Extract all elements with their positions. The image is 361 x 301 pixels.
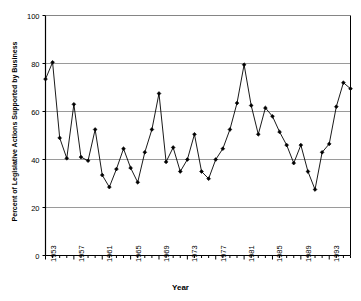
- data-point-marker: [100, 173, 104, 177]
- data-point-marker: [185, 158, 189, 162]
- data-point-marker: [129, 166, 133, 170]
- data-point-marker: [79, 155, 83, 159]
- data-point-marker: [228, 128, 232, 132]
- data-point-marker: [313, 188, 317, 192]
- x-axis-title: Year: [0, 283, 361, 292]
- data-point-marker: [306, 170, 310, 174]
- data-point-marker: [171, 146, 175, 150]
- y-tick-label-20: 20: [14, 203, 40, 212]
- data-point-marker: [107, 185, 111, 189]
- data-point-marker: [292, 161, 296, 165]
- y-tick-label-40: 40: [14, 155, 40, 164]
- y-tick-label-100: 100: [14, 11, 40, 20]
- data-point-marker: [299, 143, 303, 147]
- data-point-marker: [178, 170, 182, 174]
- data-point-marker: [93, 128, 97, 132]
- x-tick-label-1969: 1969: [162, 245, 171, 262]
- data-point-marker: [256, 132, 260, 136]
- x-tick-label-1965: 1965: [134, 245, 143, 262]
- data-point-marker: [285, 143, 289, 147]
- data-point-marker: [334, 105, 338, 109]
- data-point-marker: [157, 92, 161, 96]
- data-point-marker: [235, 101, 239, 105]
- y-tick-label-0: 0: [14, 251, 40, 260]
- data-point-marker: [143, 150, 147, 154]
- y-tick-label-80: 80: [14, 59, 40, 68]
- x-tick-label-1993: 1993: [332, 245, 341, 262]
- data-point-marker: [115, 167, 119, 171]
- data-point-marker: [72, 102, 76, 106]
- data-series-line: [46, 62, 351, 189]
- data-point-marker: [44, 77, 48, 81]
- x-tick-label-1953: 1953: [49, 245, 58, 262]
- data-point-marker: [150, 128, 154, 132]
- x-tick-label-1961: 1961: [105, 245, 114, 262]
- data-point-marker: [249, 104, 253, 108]
- chart-container: Percent of Legislative Actions Supported…: [0, 0, 361, 301]
- data-point-marker: [122, 147, 126, 151]
- data-point-marker: [136, 180, 140, 184]
- data-point-marker: [193, 132, 197, 136]
- x-tick-label-1973: 1973: [190, 245, 199, 262]
- data-point-marker: [58, 136, 62, 140]
- x-tick-label-1957: 1957: [77, 245, 86, 262]
- data-point-marker: [164, 160, 168, 164]
- x-tick-label-1989: 1989: [304, 245, 313, 262]
- x-tick-label-1981: 1981: [247, 245, 256, 262]
- x-tick-label-1985: 1985: [275, 245, 284, 262]
- y-tick-label-60: 60: [14, 107, 40, 116]
- x-tick-label-1977: 1977: [219, 245, 228, 262]
- data-point-marker: [278, 130, 282, 134]
